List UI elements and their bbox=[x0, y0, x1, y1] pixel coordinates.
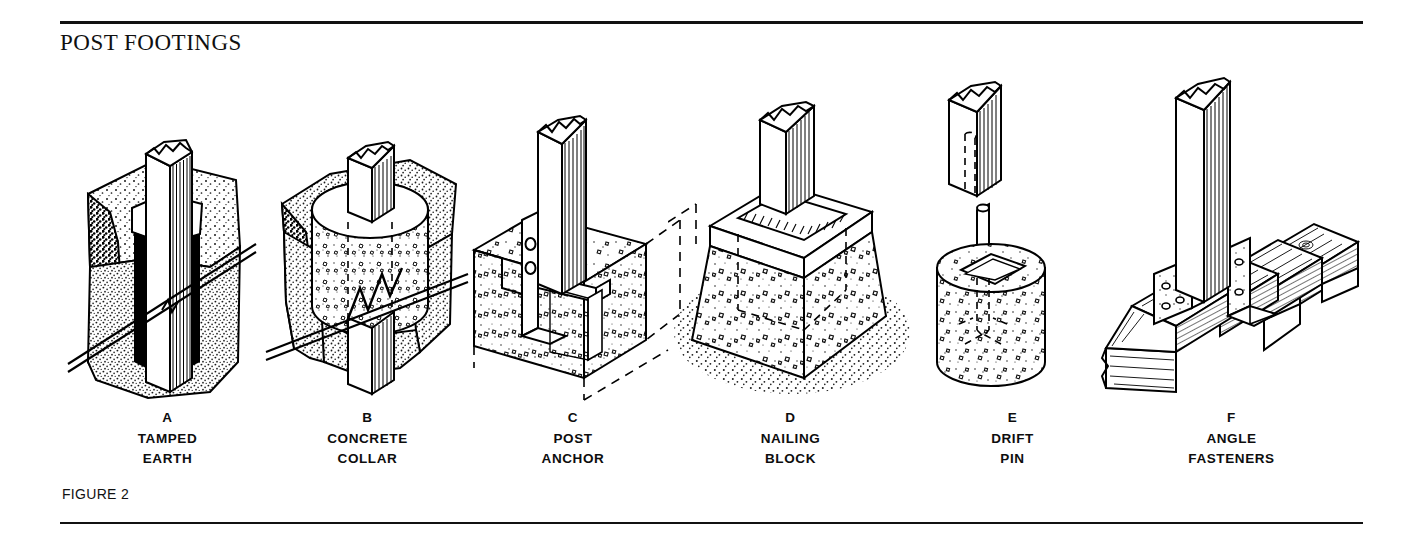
concrete-collar-illustration bbox=[260, 62, 475, 402]
caption-f-line2: FASTENERS bbox=[1100, 449, 1363, 470]
caption-c-letter: C bbox=[458, 408, 688, 429]
figure-label: FIGURE 2 bbox=[62, 486, 129, 502]
caption-a-line2: EARTH bbox=[60, 449, 275, 470]
panel-c-post-anchor: C POST ANCHOR bbox=[458, 62, 688, 477]
caption-f-line1: ANGLE bbox=[1100, 429, 1363, 450]
caption-c-line1: POST bbox=[458, 429, 688, 450]
caption-e-letter: E bbox=[915, 408, 1110, 429]
panel-b-concrete-collar: B CONCRETE COLLAR bbox=[260, 62, 475, 477]
angle-fasteners-illustration bbox=[1100, 62, 1363, 402]
page-title: POST FOOTINGS bbox=[60, 30, 242, 56]
bottom-rule bbox=[60, 522, 1363, 524]
caption-b: B CONCRETE COLLAR bbox=[260, 408, 475, 470]
caption-a-letter: A bbox=[60, 408, 275, 429]
caption-d-line2: BLOCK bbox=[668, 449, 913, 470]
caption-b-line2: COLLAR bbox=[260, 449, 475, 470]
caption-a-line1: TAMPED bbox=[60, 429, 275, 450]
caption-f-letter: F bbox=[1100, 408, 1363, 429]
caption-a: A TAMPED EARTH bbox=[60, 408, 275, 470]
caption-d-letter: D bbox=[668, 408, 913, 429]
drift-pin-illustration bbox=[915, 62, 1110, 402]
caption-d: D NAILING BLOCK bbox=[668, 408, 913, 470]
caption-d-line1: NAILING bbox=[668, 429, 913, 450]
caption-f: F ANGLE FASTENERS bbox=[1100, 408, 1363, 470]
panel-e-drift-pin: E DRIFT PIN bbox=[915, 62, 1110, 477]
post-anchor-illustration bbox=[458, 62, 688, 402]
caption-e-line2: PIN bbox=[915, 449, 1110, 470]
panel-f-angle-fasteners: F ANGLE FASTENERS bbox=[1100, 62, 1363, 477]
nailing-block-illustration bbox=[668, 62, 913, 402]
panel-a-tamped-earth: A TAMPED EARTH bbox=[60, 62, 275, 477]
caption-c-line2: ANCHOR bbox=[458, 449, 688, 470]
illustration-plate: A TAMPED EARTH bbox=[60, 62, 1363, 477]
caption-b-line1: CONCRETE bbox=[260, 429, 475, 450]
tamped-earth-illustration bbox=[60, 62, 275, 402]
top-rule bbox=[60, 21, 1363, 24]
caption-c: C POST ANCHOR bbox=[458, 408, 688, 470]
caption-e-line1: DRIFT bbox=[915, 429, 1110, 450]
caption-b-letter: B bbox=[260, 408, 475, 429]
panel-d-nailing-block: D NAILING BLOCK bbox=[668, 62, 913, 477]
caption-e: E DRIFT PIN bbox=[915, 408, 1110, 470]
figure-page: POST FOOTINGS bbox=[0, 0, 1415, 546]
